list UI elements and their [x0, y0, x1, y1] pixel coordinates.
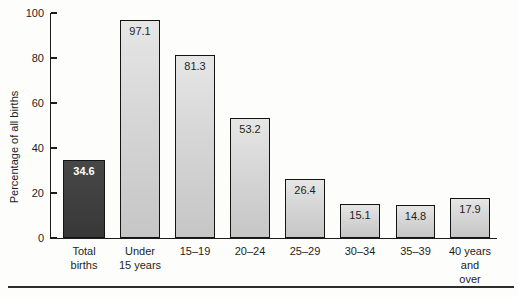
bar-chart: Percentage of all births 02040608010034.… [0, 0, 518, 297]
bar-value-label: 15.1 [341, 209, 379, 221]
y-tick-label: 0 [12, 232, 44, 244]
y-tick-label: 40 [12, 142, 44, 154]
bar: 26.4 [285, 179, 325, 238]
figure: Percentage of all births 02040608010034.… [0, 0, 518, 297]
y-tick-mark [51, 57, 57, 58]
y-tick-mark [51, 102, 57, 103]
bar-value-label: 53.2 [231, 123, 269, 135]
bar: 81.3 [175, 55, 215, 238]
bar: 14.8 [396, 205, 435, 238]
x-tick-label: 40 years and over [428, 244, 512, 286]
bar: 34.6 [63, 160, 105, 238]
bar-value-label: 34.6 [64, 165, 104, 177]
y-tick-label: 20 [12, 187, 44, 199]
y-tick-mark [51, 12, 57, 13]
y-tick-label: 60 [12, 97, 44, 109]
y-tick-mark [51, 192, 57, 193]
y-axis-line [50, 13, 51, 239]
figure-bottom-rule [8, 286, 514, 288]
bar-value-label: 26.4 [286, 184, 324, 196]
bar: 15.1 [340, 204, 380, 238]
y-tick-label: 100 [12, 7, 44, 19]
bar-value-label: 14.8 [397, 210, 434, 222]
bar-value-label: 81.3 [176, 60, 214, 72]
bar: 97.1 [120, 20, 160, 238]
y-tick-mark [51, 147, 57, 148]
y-tick-mark [51, 237, 57, 238]
bar-value-label: 17.9 [451, 203, 489, 215]
bar: 53.2 [230, 118, 270, 238]
bar-value-label: 97.1 [121, 25, 159, 37]
bar: 17.9 [450, 198, 490, 238]
y-tick-label: 80 [12, 52, 44, 64]
